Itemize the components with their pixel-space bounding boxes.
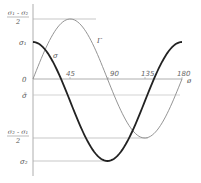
stress-transformation-diagram: σ₁ - σ₂ 2 σ₁ 0 σ̄ σ₂ - σ₁ 2 σ₂ 45 90 135… bbox=[0, 0, 201, 183]
label-sigma2: σ₂ bbox=[20, 158, 28, 166]
tau-curve bbox=[33, 19, 182, 138]
curve-label-tau: Γ bbox=[96, 37, 103, 45]
tick-label-135: 135 bbox=[141, 70, 155, 78]
svg-text:σ₁ - σ₂: σ₁ - σ₂ bbox=[8, 9, 29, 17]
svg-text:2: 2 bbox=[15, 137, 20, 145]
label-zero: 0 bbox=[22, 76, 27, 84]
svg-text:σ₂ - σ₁: σ₂ - σ₁ bbox=[8, 128, 28, 136]
label-sigma-bar: σ̄ bbox=[22, 92, 27, 100]
x-axis-label: ø bbox=[186, 77, 192, 85]
svg-text:2: 2 bbox=[15, 18, 20, 26]
tick-label-45: 45 bbox=[66, 70, 75, 78]
curve-label-sigma: σ bbox=[53, 52, 58, 60]
tick-label-90: 90 bbox=[110, 70, 119, 78]
label-tau-min: σ₂ - σ₁ 2 bbox=[7, 128, 29, 145]
label-tau-max: σ₁ - σ₂ 2 bbox=[7, 9, 29, 26]
label-sigma1: σ₁ bbox=[19, 39, 27, 47]
